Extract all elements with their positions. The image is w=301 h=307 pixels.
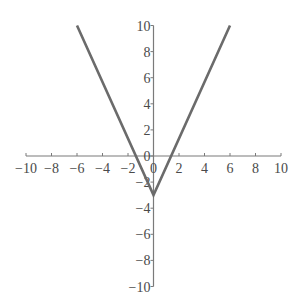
x-tick-label: −2 xyxy=(121,161,136,176)
y-tick-label: 8 xyxy=(144,45,151,60)
absolute-value-chart: −10−8−6−4−20246810−10−8−6−4−20246810 xyxy=(0,0,301,307)
x-tick-label: 6 xyxy=(227,161,234,176)
x-tick-label: 0 xyxy=(150,161,157,176)
x-tick-label: 8 xyxy=(252,161,259,176)
y-tick-label: −10 xyxy=(129,280,151,295)
x-tick-label: −8 xyxy=(44,161,59,176)
y-tick-label: 2 xyxy=(144,123,151,138)
y-tick-label: −8 xyxy=(136,253,151,268)
x-tick-label: 4 xyxy=(201,161,208,176)
x-tick-label: −6 xyxy=(70,161,85,176)
y-tick-label: 4 xyxy=(144,97,151,112)
x-tick-label: −4 xyxy=(95,161,110,176)
y-tick-label: 6 xyxy=(144,71,151,86)
x-tick-label: −10 xyxy=(15,161,37,176)
y-tick-label: −6 xyxy=(136,227,151,242)
x-tick-label: 2 xyxy=(176,161,183,176)
y-tick-label: −4 xyxy=(136,201,151,216)
y-tick-label: 0 xyxy=(144,149,151,164)
x-tick-label: 10 xyxy=(274,161,288,176)
y-tick-label: 10 xyxy=(137,19,151,34)
